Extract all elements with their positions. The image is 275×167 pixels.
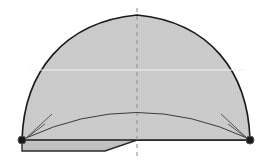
- left-node-marker[interactable]: [18, 136, 26, 144]
- right-node-marker[interactable]: [246, 136, 254, 144]
- dome-geometry-figure: [0, 0, 275, 167]
- dome-outline: [22, 15, 250, 140]
- diagram-viewport: [0, 0, 275, 167]
